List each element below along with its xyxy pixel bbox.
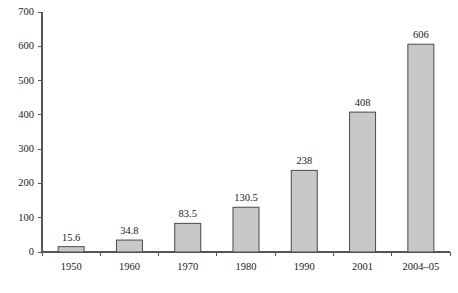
y-axis-tick-label: 400 [0, 110, 34, 121]
bar [350, 112, 376, 252]
y-axis-tick-label: 100 [0, 213, 34, 224]
bar-chart: 0100200300400500600700 19501960197019801… [0, 0, 458, 293]
bar [408, 44, 434, 252]
bar [58, 247, 84, 252]
x-axis-tick-label: 2004–05 [381, 262, 458, 273]
chart-bars [58, 44, 434, 252]
bar [175, 223, 201, 252]
bar-value-label: 408 [323, 98, 403, 109]
y-axis-tick-label: 200 [0, 178, 34, 189]
y-axis-tick-label: 500 [0, 76, 34, 87]
bar-value-label: 34.8 [89, 226, 169, 237]
chart-canvas [0, 0, 458, 293]
y-axis-tick-label: 700 [0, 7, 34, 18]
bar [116, 240, 142, 252]
bar-value-label: 238 [264, 156, 344, 167]
y-axis-tick-label: 0 [0, 247, 34, 258]
y-axis-tick-label: 300 [0, 144, 34, 155]
bar [233, 207, 259, 252]
bar [291, 170, 317, 252]
y-axis-tick-label: 600 [0, 41, 34, 52]
bar-value-label: 130.5 [206, 193, 286, 204]
bar-value-label: 83.5 [148, 209, 228, 220]
bar-value-label: 606 [381, 30, 458, 41]
